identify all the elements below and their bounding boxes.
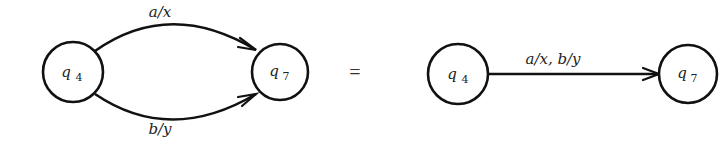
mealy-machine-equivalence-diagram: a/x b/y q 4 q 7 = a/x, b/y q 4 (0, 0, 725, 142)
state-subscript: 7 (691, 72, 698, 85)
state-name: q (61, 63, 71, 81)
equals-sign: = (349, 61, 360, 83)
state-q7: q 7 (659, 45, 717, 103)
transition-edge-a-x (95, 24, 256, 51)
state-name: q (677, 64, 687, 82)
transition-label-a-x: a/x (149, 3, 172, 21)
left-diagram: a/x b/y q 4 q 7 (43, 3, 308, 138)
transition-label-combined: a/x, b/y (525, 50, 581, 68)
state-name: q (269, 62, 279, 80)
state-name: q (447, 65, 457, 83)
state-q7: q 7 (252, 44, 308, 100)
state-subscript: 7 (283, 70, 290, 83)
transition-edge-b-y (95, 94, 256, 120)
state-subscript: 4 (76, 71, 83, 84)
transition-label-b-y: b/y (148, 120, 172, 138)
state-q4: q 4 (428, 44, 488, 104)
state-q4: q 4 (43, 42, 103, 102)
arrowhead-icon (238, 38, 256, 50)
state-subscript: 4 (462, 73, 469, 86)
right-diagram: a/x, b/y q 4 q 7 (428, 44, 717, 104)
